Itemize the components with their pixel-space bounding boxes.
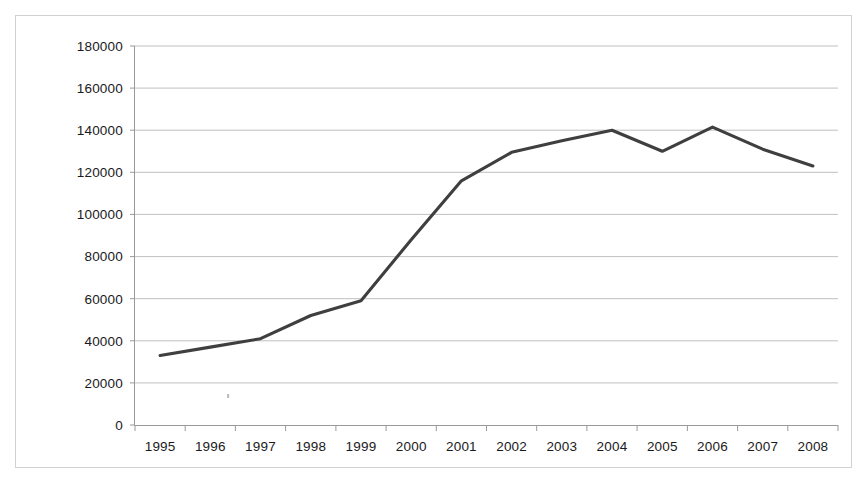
x-axis-tick-label: 2003 bbox=[546, 439, 577, 454]
x-axis-tick-label: 2006 bbox=[697, 439, 728, 454]
y-axis-tick-label: 120000 bbox=[77, 165, 123, 180]
y-axis-tick-label: 40000 bbox=[84, 334, 123, 349]
y-axis-tick-label: 140000 bbox=[77, 123, 123, 138]
y-axis-tick-labels: 0200004000060000800001000001200001400001… bbox=[77, 39, 123, 433]
y-axis-tick-label: 180000 bbox=[77, 39, 123, 54]
x-axis-tick-label: 2005 bbox=[647, 439, 678, 454]
data-series-line bbox=[160, 127, 813, 355]
x-axis-tick-label: 2000 bbox=[396, 439, 427, 454]
y-axis-tick-label: 60000 bbox=[84, 292, 123, 307]
x-axis-tick-label: 1999 bbox=[346, 439, 377, 454]
x-axis-tick-label: 1996 bbox=[195, 439, 226, 454]
y-axis-tick-label: 80000 bbox=[84, 249, 123, 264]
x-axis-tick-label: 2004 bbox=[597, 439, 628, 454]
x-axis-tick-labels: 1995199619971998199920002001200220032004… bbox=[145, 439, 829, 454]
x-axis-tick-label: 1995 bbox=[145, 439, 176, 454]
x-axis-tick-label: 2002 bbox=[496, 439, 527, 454]
scan-artifact-speck bbox=[227, 394, 229, 398]
gridlines bbox=[135, 46, 838, 383]
x-axis-tick-label: 1998 bbox=[295, 439, 326, 454]
y-axis-tick-label: 20000 bbox=[84, 376, 123, 391]
x-axis-tick-label: 2008 bbox=[797, 439, 828, 454]
x-axis-tick-label: 1997 bbox=[245, 439, 276, 454]
line-chart: 0200004000060000800001000001200001400001… bbox=[0, 0, 867, 491]
axis-ticks bbox=[130, 46, 838, 431]
y-axis-tick-label: 0 bbox=[115, 418, 123, 433]
y-axis-tick-label: 100000 bbox=[77, 207, 123, 222]
y-axis-tick-label: 160000 bbox=[77, 81, 123, 96]
x-axis-tick-label: 2001 bbox=[446, 439, 477, 454]
x-axis-tick-label: 2007 bbox=[747, 439, 778, 454]
